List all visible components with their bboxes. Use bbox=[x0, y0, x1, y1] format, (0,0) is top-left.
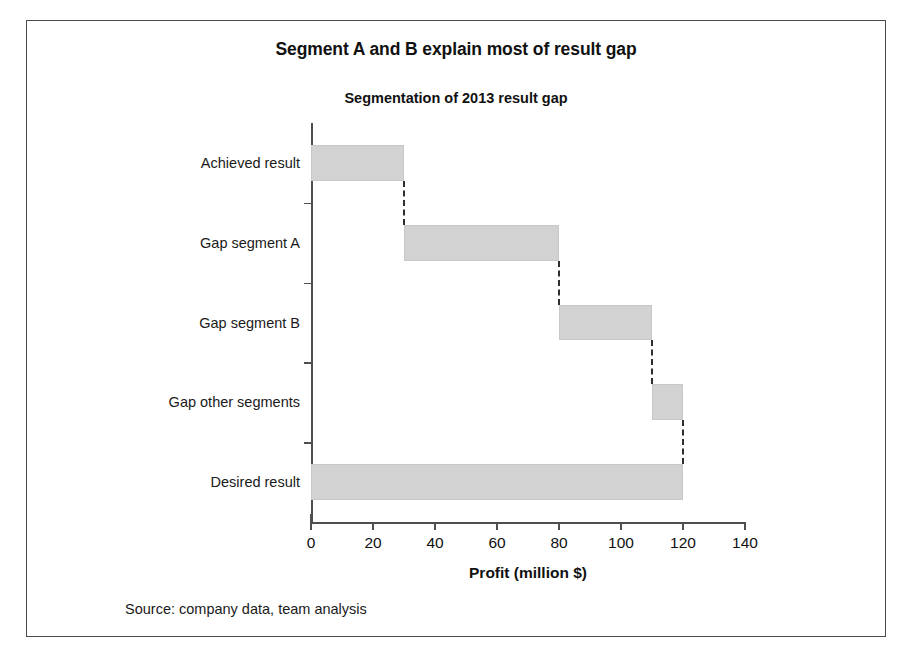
y-category-label-3: Gap segment B bbox=[199, 315, 300, 331]
x-axis-title: Profit (million $) bbox=[311, 564, 745, 582]
bar-gap-other-segments bbox=[652, 384, 683, 420]
figure-frame: Segment A and B explain most of result g… bbox=[26, 20, 886, 637]
x-tick-label-60: 60 bbox=[488, 534, 505, 552]
connector-1 bbox=[403, 181, 405, 225]
plot-area: Achieved resultGap segment AGap segment … bbox=[311, 123, 771, 523]
x-tick-40 bbox=[434, 522, 436, 530]
y-axis-line bbox=[311, 123, 313, 522]
connector-3 bbox=[651, 340, 653, 384]
y-tick-2 bbox=[304, 283, 311, 285]
x-tick-20 bbox=[372, 522, 374, 530]
connector-4 bbox=[682, 420, 684, 464]
y-category-label-2: Gap segment A bbox=[200, 235, 300, 251]
source-note: Source: company data, team analysis bbox=[125, 601, 367, 617]
bar-gap-segment-a bbox=[404, 225, 559, 261]
x-tick-label-120: 120 bbox=[670, 534, 696, 552]
bar-gap-segment-b bbox=[559, 305, 652, 341]
y-tick-1 bbox=[304, 203, 311, 205]
x-tick-label-100: 100 bbox=[608, 534, 634, 552]
y-tick-3 bbox=[304, 362, 311, 364]
x-tick-label-0: 0 bbox=[307, 534, 316, 552]
x-tick-100 bbox=[620, 522, 622, 530]
chart-subtitle: Segmentation of 2013 result gap bbox=[27, 90, 885, 106]
x-tick-0 bbox=[310, 514, 312, 530]
x-axis-line bbox=[311, 522, 745, 524]
bar-desired-result bbox=[311, 464, 683, 500]
chart-title: Segment A and B explain most of result g… bbox=[27, 39, 885, 60]
x-tick-80 bbox=[558, 522, 560, 530]
y-category-label-4: Gap other segments bbox=[169, 394, 300, 410]
x-tick-140 bbox=[744, 522, 746, 530]
y-category-label-5: Desired result bbox=[211, 474, 300, 490]
x-tick-60 bbox=[496, 522, 498, 530]
x-tick-label-80: 80 bbox=[550, 534, 567, 552]
x-tick-label-140: 140 bbox=[732, 534, 758, 552]
x-tick-label-20: 20 bbox=[364, 534, 381, 552]
x-tick-label-40: 40 bbox=[426, 534, 443, 552]
x-tick-120 bbox=[682, 522, 684, 530]
bar-achieved-result bbox=[311, 145, 404, 181]
y-category-label-1: Achieved result bbox=[201, 155, 300, 171]
connector-2 bbox=[558, 261, 560, 305]
y-tick-4 bbox=[304, 442, 311, 444]
